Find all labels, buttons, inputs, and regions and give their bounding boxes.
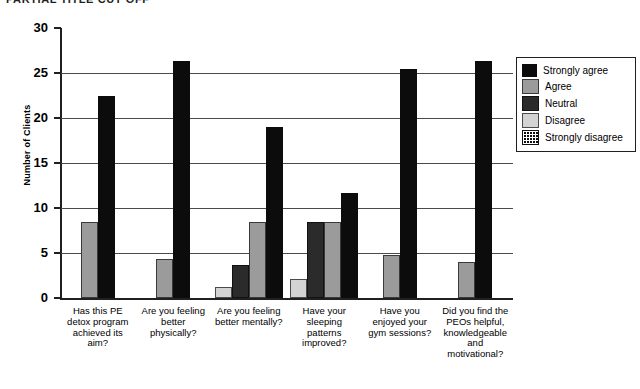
bar-groups <box>60 28 513 298</box>
bar-strongly-agree[interactable] <box>341 193 358 298</box>
bar-disagree[interactable] <box>290 279 307 298</box>
bar-strongly-agree[interactable] <box>475 61 492 298</box>
plot-area: 051015202530 <box>60 28 513 300</box>
category-labels: Has this PE detox program achieved its a… <box>60 306 513 360</box>
y-axis-tick-label: 5 <box>18 246 48 259</box>
category-label: Have you enjoyed your gym sessions? <box>362 306 438 360</box>
category-label: Did you find the PEOs helpful, knowledge… <box>438 306 514 360</box>
y-axis-tick-label: 15 <box>18 156 48 169</box>
legend-item[interactable]: Strongly agree <box>522 64 631 77</box>
bar-neutral[interactable] <box>307 222 324 299</box>
y-axis-tick-label: 20 <box>18 111 48 124</box>
legend-item[interactable]: Disagree <box>522 113 631 128</box>
legend-swatch-neutral <box>522 96 539 111</box>
bar-group <box>211 28 287 298</box>
page-title-cropped: PARTIAL TITLE CUT OFF <box>6 0 196 7</box>
bar-group <box>287 28 363 298</box>
bar-group <box>362 28 438 298</box>
category-label: Are you feeling better mentally? <box>211 306 287 360</box>
y-axis-tick-label: 30 <box>18 21 48 34</box>
y-axis-title: Number of Clients <box>22 70 32 220</box>
legend-label: Agree <box>545 81 572 92</box>
page-title-text: PARTIAL TITLE CUT OFF <box>6 0 196 5</box>
bar-agree[interactable] <box>383 255 400 298</box>
x-axis-line <box>60 298 513 300</box>
legend-swatch-disagree <box>522 113 539 128</box>
legend-swatch-agree <box>522 79 539 94</box>
bar-group <box>60 28 136 298</box>
legend-swatch-strongly-disagree <box>522 130 539 145</box>
bar-strongly-agree[interactable] <box>266 127 283 298</box>
category-label: Are you feeling better physically? <box>136 306 212 360</box>
bar-strongly-agree[interactable] <box>400 69 417 298</box>
y-axis-tick-label: 0 <box>18 291 48 304</box>
chart-legend: Strongly agreeAgreeNeutralDisagreeStrong… <box>516 57 636 152</box>
bar-strongly-agree[interactable] <box>98 96 115 299</box>
legend-item[interactable]: Strongly disagree <box>522 130 631 145</box>
bar-agree[interactable] <box>249 222 266 299</box>
y-axis-tick-label: 10 <box>18 201 48 214</box>
y-axis-tick-label: 25 <box>18 66 48 79</box>
bar-disagree[interactable] <box>215 287 232 298</box>
category-label: Have your sleeping patterns improved? <box>287 306 363 360</box>
bar-group <box>136 28 212 298</box>
bar-neutral[interactable] <box>232 265 249 298</box>
bar-agree[interactable] <box>81 222 98 299</box>
legend-label: Strongly agree <box>543 65 608 76</box>
legend-label: Neutral <box>545 98 577 109</box>
bar-strongly-agree[interactable] <box>173 61 190 298</box>
legend-item[interactable]: Neutral <box>522 96 631 111</box>
legend-label: Disagree <box>545 115 585 126</box>
bar-group <box>438 28 514 298</box>
legend-label: Strongly disagree <box>545 132 623 143</box>
legend-item[interactable]: Agree <box>522 79 631 94</box>
bar-agree[interactable] <box>324 222 341 299</box>
chart-page: PARTIAL TITLE CUT OFF Number of Clients … <box>0 0 640 389</box>
bar-agree[interactable] <box>458 262 475 298</box>
legend-swatch-strongly-agree <box>522 64 537 77</box>
bar-agree[interactable] <box>156 259 173 298</box>
category-label: Has this PE detox program achieved its a… <box>60 306 136 360</box>
